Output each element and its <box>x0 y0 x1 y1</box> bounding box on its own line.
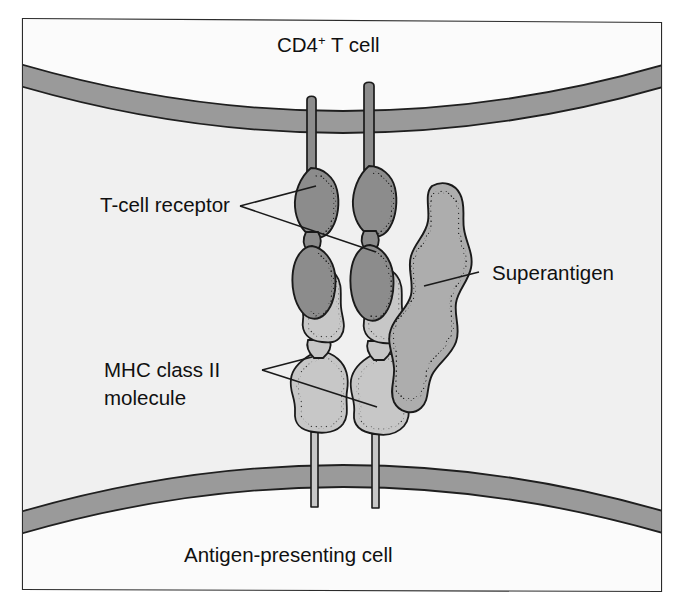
tcr-left-stalk <box>307 96 316 172</box>
figure-root: CD4+ T cell Antigen-presenting cell T-ce… <box>0 0 683 615</box>
t-cell-receptor-label: T-cell receptor <box>100 193 230 216</box>
tcr-right-stalk <box>364 82 374 170</box>
cd4-t-cell-label-main: CD4 <box>277 33 318 56</box>
antigen-presenting-cell-label: Antigen-presenting cell <box>184 543 393 566</box>
mhc-class-ii-label-line-2: molecule <box>104 386 186 409</box>
superantigen-label: Superantigen <box>492 261 614 284</box>
cd4-t-cell-label-suffix: T cell <box>326 33 380 56</box>
superantigen-diagram: CD4+ T cell Antigen-presenting cell T-ce… <box>0 0 683 615</box>
mhc-left-stalk <box>311 432 318 507</box>
cd4-t-cell-label-superscript: + <box>318 33 326 48</box>
mhc-class-ii-label-line-1: MHC class II <box>104 358 220 381</box>
tcr-right-upper-domain <box>353 166 396 237</box>
cd4-t-cell-label: CD4+ T cell <box>277 33 380 56</box>
mhc-right-stalk <box>372 434 379 508</box>
